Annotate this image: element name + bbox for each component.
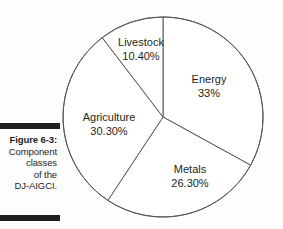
pie-chart: Energy33%Metals26.30%Agriculture30.30%Li… (60, 0, 283, 229)
figure-caption-line-4: DJ-AIGCI. (0, 180, 57, 192)
figure-caption-line-3: of the (0, 169, 57, 181)
pie-value-energy: 33% (198, 87, 220, 99)
pie-label-metals: Metals (174, 163, 207, 175)
figure-caption-line-2: classes (0, 157, 57, 169)
pie-value-livestock: 10.40% (122, 50, 160, 62)
pie-value-metals: 26.30% (171, 177, 209, 189)
figure-caption-line-1: Component (0, 146, 57, 158)
figure-caption-title: Figure 6-3: (0, 134, 57, 146)
pie-chart-svg: Energy33%Metals26.30%Agriculture30.30%Li… (60, 0, 283, 229)
pie-label-agriculture: Agriculture (83, 111, 136, 123)
pie-value-agriculture: 30.30% (90, 125, 128, 137)
pie-label-livestock: Livestock (118, 36, 164, 48)
caption-rule-bottom (0, 215, 60, 221)
figure-caption-block: Figure 6-3: Component classes of the DJ-… (0, 0, 60, 229)
figure-caption-text: Figure 6-3: Component classes of the DJ-… (0, 134, 57, 192)
caption-rule-top (0, 123, 60, 129)
figure-container: Figure 6-3: Component classes of the DJ-… (0, 0, 283, 229)
pie-label-energy: Energy (192, 73, 227, 85)
